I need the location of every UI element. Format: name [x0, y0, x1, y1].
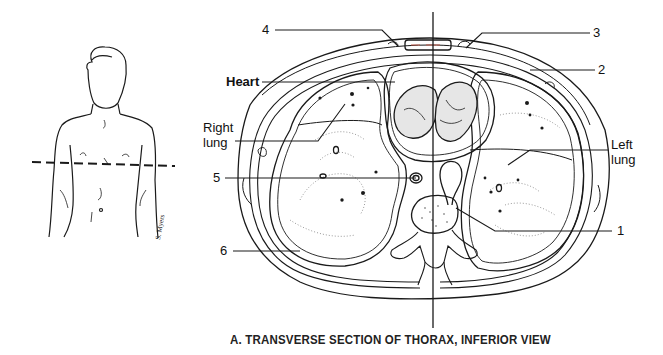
label-5: 5	[213, 171, 220, 185]
diagram-canvas: S. Myers	[0, 0, 663, 355]
label-2: 2	[598, 63, 605, 77]
body-figure: S. Myers	[32, 47, 175, 240]
label-left-lung-line1: Left	[611, 138, 633, 152]
label-heart: Heart	[226, 75, 259, 89]
figure-caption: A. TRANSVERSE SECTION OF THORAX, INFERIO…	[230, 333, 551, 347]
label-right-lung-line1: Right	[203, 121, 233, 135]
label-right-lung-line2: lung	[203, 136, 228, 150]
label-1: 1	[617, 224, 624, 238]
thorax-cross-section	[238, 38, 609, 299]
label-6: 6	[220, 244, 227, 258]
label-4: 4	[262, 23, 269, 37]
label-left-lung-line2: lung	[611, 153, 636, 167]
label-3: 3	[593, 26, 600, 40]
